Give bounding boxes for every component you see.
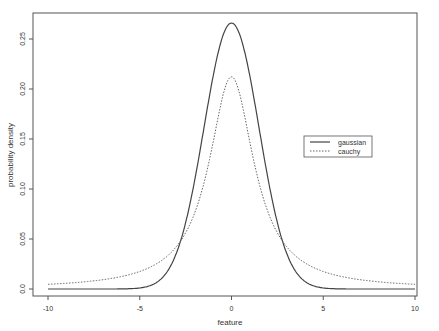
legend: gaussian cauchy: [304, 136, 372, 157]
cauchy-curve: [48, 77, 415, 284]
x-tick-label: 0: [230, 305, 234, 312]
chart: 0.00.050.100.150.200.25 -10-50510 probab…: [0, 0, 439, 331]
y-tick-label: 0.15: [19, 132, 26, 146]
y-axis-label: probability density: [6, 123, 15, 187]
x-axis-label: feature: [218, 318, 243, 327]
x-tick-label: 5: [321, 305, 325, 312]
x-tick-label: -5: [137, 305, 143, 312]
x-tick-label: 10: [411, 305, 419, 312]
x-tick-label: -10: [43, 305, 53, 312]
y-tick-label: 0.05: [19, 232, 26, 246]
x-axis: -10-50510: [43, 296, 419, 312]
y-axis: 0.00.050.100.150.200.25: [19, 32, 33, 294]
y-tick-label: 0.20: [19, 82, 26, 96]
y-tick-label: 0.10: [19, 182, 26, 196]
legend-cauchy-label: cauchy: [338, 148, 361, 156]
y-tick-label: 0.0: [19, 284, 26, 294]
y-tick-label: 0.25: [19, 32, 26, 46]
legend-gaussian-label: gaussian: [338, 139, 366, 147]
